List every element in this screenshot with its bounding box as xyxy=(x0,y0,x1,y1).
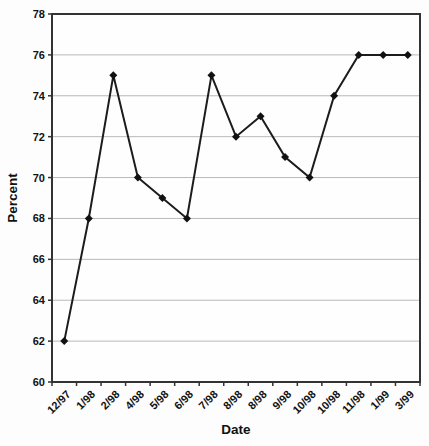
y-tick-label: 60 xyxy=(33,376,45,388)
x-axis-title: Date xyxy=(221,422,251,437)
y-tick-label: 78 xyxy=(33,8,45,20)
x-tick-label: 8/98 xyxy=(221,388,245,412)
y-axis-title: Percent xyxy=(5,173,20,223)
x-tick-label: 1/98 xyxy=(74,388,98,412)
x-tick-label: 11/98 xyxy=(340,388,368,416)
y-tick-label: 64 xyxy=(33,294,46,306)
x-tick-label: 3/99 xyxy=(393,388,417,412)
y-tick-label: 66 xyxy=(33,253,45,265)
line-chart: 6062646668707274767812/971/982/984/985/9… xyxy=(0,0,429,446)
x-tick-label: 7/98 xyxy=(196,388,220,412)
x-tick-label: 6/98 xyxy=(172,388,196,412)
x-tick-label: 1/99 xyxy=(368,388,392,412)
x-tick-label: 12/97 xyxy=(45,388,73,416)
x-tick-label: 5/98 xyxy=(147,388,171,412)
x-tick-label: 10/98 xyxy=(290,388,318,416)
x-tick-label: 4/98 xyxy=(123,388,147,412)
x-tick-label: 8/98 xyxy=(245,388,269,412)
x-tick-label: 2/98 xyxy=(98,388,122,412)
plot-background xyxy=(52,14,420,382)
y-tick-label: 62 xyxy=(33,335,45,347)
y-tick-label: 72 xyxy=(33,131,45,143)
chart-canvas: 6062646668707274767812/971/982/984/985/9… xyxy=(0,0,429,446)
y-tick-label: 70 xyxy=(33,172,45,184)
y-tick-label: 74 xyxy=(33,90,46,102)
y-tick-label: 68 xyxy=(33,212,45,224)
x-tick-label: 10/98 xyxy=(315,388,343,416)
y-tick-label: 76 xyxy=(33,49,45,61)
plot-area xyxy=(52,14,420,382)
